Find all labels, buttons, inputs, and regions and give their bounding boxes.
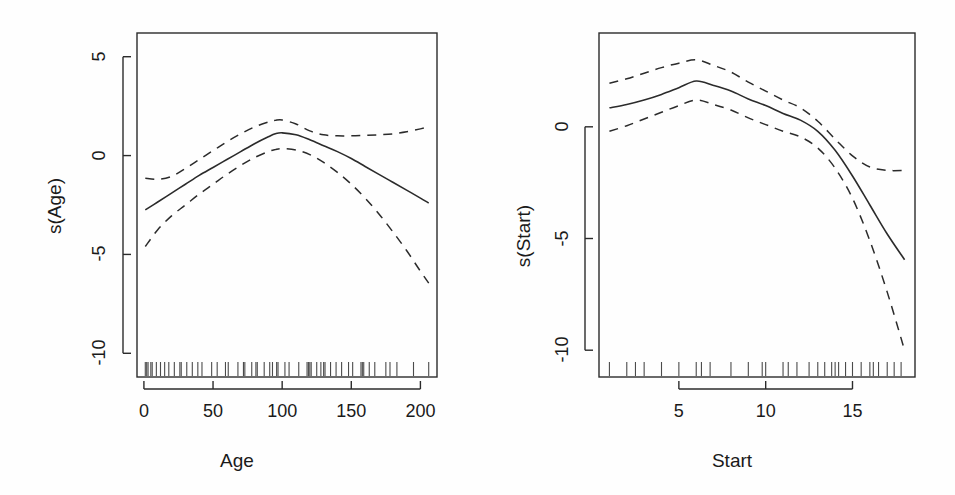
panel-age-x-axis-title: Age <box>220 450 254 472</box>
start-series-lower-ci <box>609 100 904 350</box>
age-x-tick-label: 200 <box>390 401 450 422</box>
start-frame <box>599 33 915 377</box>
start-series-upper-ci <box>609 60 904 171</box>
age-series-lower-ci <box>145 149 428 283</box>
age-x-tick-label: 0 <box>114 401 174 422</box>
start-x-tick-label: 5 <box>649 401 709 422</box>
start-x-tick-label: 10 <box>736 401 796 422</box>
panel-age-y-axis-title: s(Age) <box>44 146 66 266</box>
start-series-fit <box>609 81 904 260</box>
age-y-tick-label: 0 <box>89 133 110 177</box>
age-frame <box>137 33 437 377</box>
age-y-tick-label: -5 <box>89 232 110 276</box>
gam-partial-effect-figure: s(Age) Age 50-5-10050100150200 s(Start) … <box>0 0 955 495</box>
age-y-tick-label: 5 <box>89 34 110 78</box>
start-rug <box>609 362 901 376</box>
start-x-tick-label: 15 <box>822 401 882 422</box>
age-rug <box>145 362 428 376</box>
age-y-tick-label: -10 <box>89 331 110 375</box>
start-y-tick-label: 0 <box>552 104 573 148</box>
age-x-tick-label: 100 <box>252 401 312 422</box>
age-series-fit <box>145 133 428 210</box>
panel-start-plot-area <box>477 0 955 495</box>
panel-start-y-axis-title: s(Start) <box>513 176 535 296</box>
start-y-tick-label: -5 <box>552 216 573 260</box>
age-x-tick-label: 150 <box>321 401 381 422</box>
age-x-tick-label: 50 <box>183 401 243 422</box>
panel-age: s(Age) Age 50-5-10050100150200 <box>0 0 478 495</box>
panel-start: s(Start) Start 0-5-1051015 <box>477 0 955 495</box>
start-y-tick-label: -10 <box>552 328 573 372</box>
panel-start-x-axis-title: Start <box>712 450 752 472</box>
